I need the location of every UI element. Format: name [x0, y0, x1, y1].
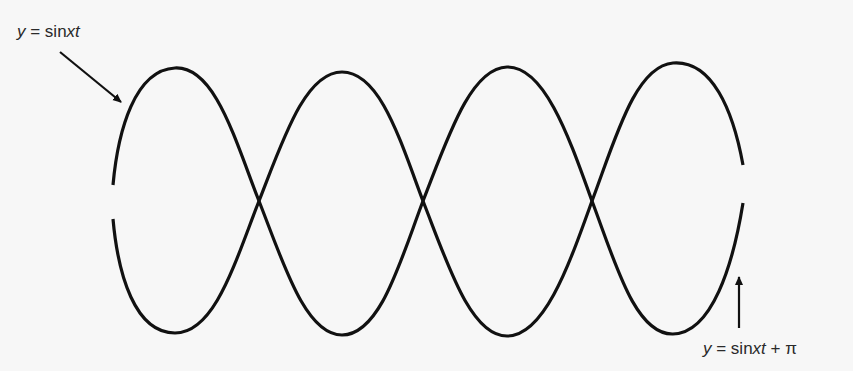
arrow-top-label [60, 52, 121, 102]
curve-sin-xt [113, 67, 743, 335]
label-sin-xt: y = sinxt [17, 22, 80, 42]
standing-wave-diagram [0, 0, 853, 371]
label-suffix: + π [766, 339, 797, 358]
label-eq: = sin [712, 339, 753, 358]
label-var: y [703, 339, 712, 358]
curve-sin-xt-plus-pi [113, 63, 743, 336]
label-sin-xt-plus-pi: y = sinxt + π [703, 339, 797, 359]
label-var: y [17, 22, 26, 41]
label-eq: = sin [26, 22, 67, 41]
label-x: x [753, 339, 762, 358]
label-t: t [75, 22, 80, 41]
label-x: x [67, 22, 76, 41]
